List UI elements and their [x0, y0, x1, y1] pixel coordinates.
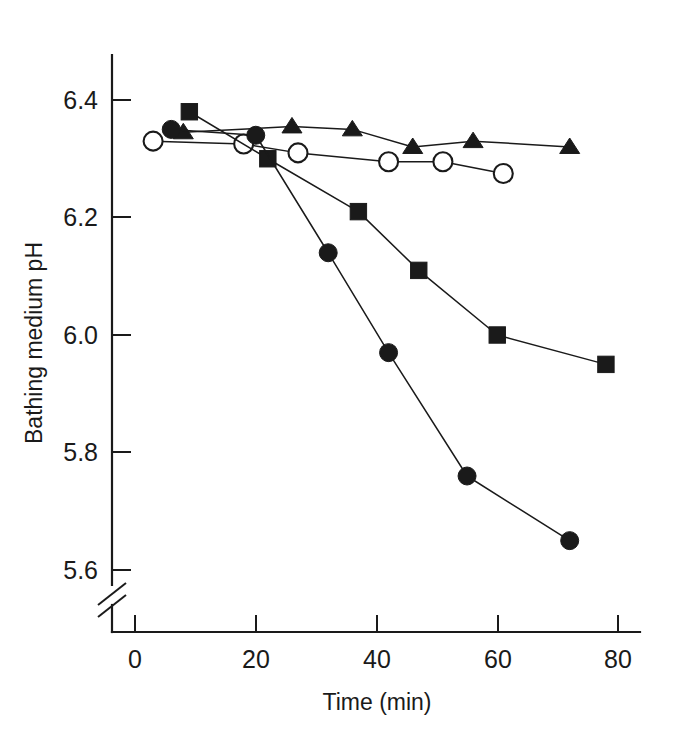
filled-square-series-point-2 [350, 203, 366, 219]
y-tick-label-0: 6.4 [63, 86, 98, 114]
filled-square-series-point-5 [598, 356, 614, 372]
filled-triangle-series-point-1 [282, 117, 302, 132]
y-axis-title: Bathing medium pH [21, 242, 47, 444]
ph-vs-time-line-chart: 6.4 6.2 6.0 5.8 5.6 0 20 40 60 80 Time (… [0, 0, 678, 729]
x-tick-label-2: 40 [363, 645, 391, 673]
open-circle-series-point-3 [379, 152, 398, 171]
filled-square-series-point-3 [411, 262, 427, 278]
filled-triangle-series-point-4 [463, 132, 483, 147]
y-tick-label-3: 5.8 [63, 438, 98, 466]
chart-figure: 6.4 6.2 6.0 5.8 5.6 0 20 40 60 80 Time (… [0, 0, 678, 729]
filled-circle-series-point-0 [162, 120, 180, 138]
filled-circle-series-point-2 [319, 244, 337, 262]
filled-circle-series-point-5 [561, 532, 579, 550]
y-axis-tick-labels: 6.4 6.2 6.0 5.8 5.6 [63, 86, 98, 584]
open-circle-series-point-0 [144, 132, 163, 151]
filled-circle-series-line [171, 129, 569, 540]
open-circle-series [144, 132, 513, 183]
filled-circle-series-point-4 [458, 467, 476, 485]
x-tick-label-4: 80 [604, 645, 632, 673]
open-circle-series-point-2 [289, 143, 308, 162]
filled-triangle-series-point-5 [560, 138, 580, 153]
x-axis-ticks [135, 615, 618, 632]
x-tick-label-1: 20 [242, 645, 270, 673]
y-axis-ticks [112, 100, 131, 570]
filled-square-series-line [189, 112, 606, 365]
x-tick-label-0: 0 [128, 645, 142, 673]
filled-circle-series-point-3 [380, 344, 398, 362]
filled-triangle-series-point-2 [342, 120, 362, 135]
y-tick-label-2: 6.0 [63, 321, 98, 349]
filled-circle-series [162, 120, 578, 549]
x-axis-title: Time (min) [322, 689, 431, 715]
open-circle-series-point-5 [494, 164, 513, 183]
data-series-layer [144, 104, 615, 550]
filled-square-series-point-0 [181, 104, 197, 120]
filled-circle-series-point-1 [247, 126, 265, 144]
y-tick-label-1: 6.2 [63, 203, 98, 231]
filled-square-series-point-4 [489, 327, 505, 343]
axis-break-slash-upper [98, 583, 126, 605]
x-tick-label-3: 60 [484, 645, 512, 673]
y-tick-label-4: 5.6 [63, 556, 98, 584]
x-axis-tick-labels: 0 20 40 60 80 [128, 645, 632, 673]
open-circle-series-point-4 [433, 152, 452, 171]
